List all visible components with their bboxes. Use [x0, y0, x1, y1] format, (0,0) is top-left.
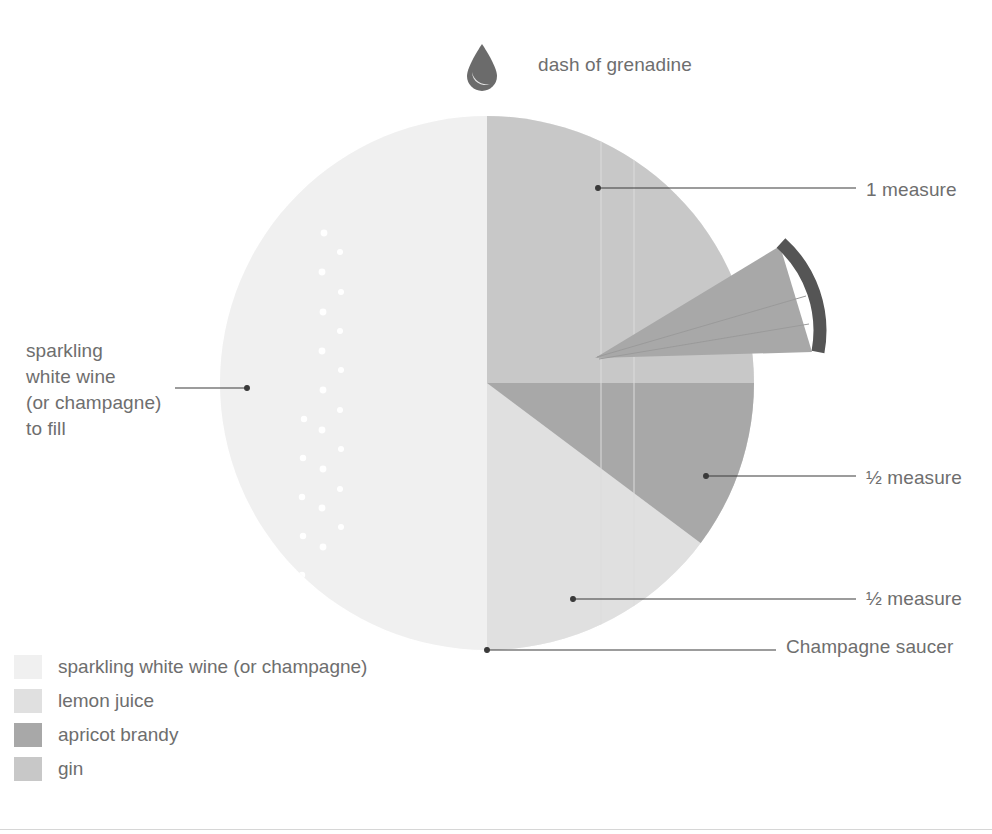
legend: sparkling white wine (or champagne) lemo… — [14, 655, 367, 781]
legend-item-sparkling-wine: sparkling white wine (or champagne) — [14, 655, 367, 679]
legend-swatch-gin — [14, 757, 42, 781]
callout-gin-amount: 1 measure — [866, 177, 957, 203]
legend-label-gin: gin — [58, 757, 83, 781]
callout-sparkling-wine: sparkling white wine (or champagne) to f… — [26, 338, 162, 442]
grenadine-label: dash of grenadine — [538, 52, 692, 78]
legend-swatch-apricot-brandy — [14, 723, 42, 747]
legend-item-apricot-brandy: apricot brandy — [14, 723, 367, 747]
legend-item-gin: gin — [14, 757, 367, 781]
footer-divider — [0, 829, 992, 830]
legend-label-lemon-juice: lemon juice — [58, 689, 154, 713]
callout-glass-name: Champagne saucer — [786, 634, 953, 660]
diagram-page: dash of grenadine 1 measure ½ measure ½ … — [0, 0, 992, 834]
legend-swatch-sparkling-wine — [14, 655, 42, 679]
legend-swatch-lemon-juice — [14, 689, 42, 713]
callout-lemon-amount: ½ measure — [866, 586, 962, 612]
callout-apricot-amount: ½ measure — [866, 465, 962, 491]
drop-icon — [467, 44, 497, 91]
legend-label-apricot-brandy: apricot brandy — [58, 723, 178, 747]
legend-item-lemon-juice: lemon juice — [14, 689, 367, 713]
legend-label-sparkling-wine: sparkling white wine (or champagne) — [58, 655, 367, 679]
